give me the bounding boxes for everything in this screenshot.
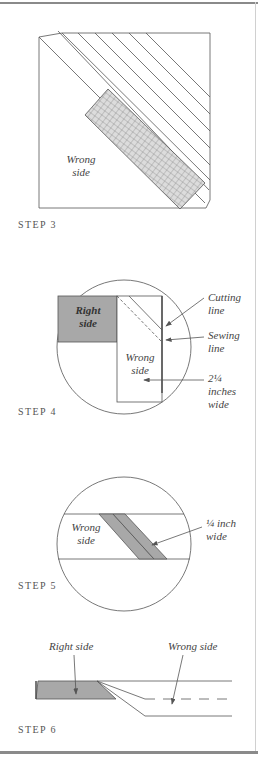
label-line: side bbox=[66, 166, 96, 179]
label-line: wide bbox=[206, 530, 236, 543]
step3-caption: STEP 3 bbox=[18, 219, 57, 230]
step4-diagram bbox=[57, 280, 204, 414]
step5-seam-width-label: ¼ inch wide bbox=[206, 517, 236, 543]
step4-caption: STEP 4 bbox=[18, 406, 57, 417]
label-line: line bbox=[208, 342, 240, 355]
step4-sewing-line-label: Sewing line bbox=[208, 329, 240, 355]
step6-diagram bbox=[36, 655, 232, 716]
label-line: 2¼ bbox=[208, 372, 236, 385]
label-line: side bbox=[122, 364, 158, 377]
label-line: side bbox=[74, 317, 102, 330]
step4-wrong-side-label: Wrong side bbox=[122, 351, 158, 377]
label-line: Sewing bbox=[208, 329, 240, 342]
step5-wrong-side-label: Wrong side bbox=[70, 521, 102, 547]
label-line: Cutting bbox=[208, 291, 241, 304]
step6-right-side-label: Right side bbox=[49, 640, 93, 653]
label-line: Wrong bbox=[122, 351, 158, 364]
label-line: Right bbox=[74, 304, 102, 317]
step3-wrong-side-label: Wrong side bbox=[66, 153, 96, 179]
step5-caption: STEP 5 bbox=[18, 580, 57, 591]
label-line: Wrong bbox=[66, 153, 96, 166]
step4-width-label: 2¼ inches wide bbox=[208, 372, 236, 411]
step3-diagram bbox=[39, 31, 210, 209]
step4-right-side-label: Right side bbox=[74, 304, 102, 330]
step4-cutting-line-label: Cutting line bbox=[208, 291, 241, 317]
label-line: inches bbox=[208, 385, 236, 398]
label-line: line bbox=[208, 304, 241, 317]
label-line: ¼ inch bbox=[206, 517, 236, 530]
step6-caption: STEP 6 bbox=[18, 724, 57, 735]
label-line: Wrong bbox=[70, 521, 102, 534]
label-line: wide bbox=[208, 398, 236, 411]
step6-wrong-side-label: Wrong side bbox=[168, 640, 217, 653]
label-line: side bbox=[70, 534, 102, 547]
